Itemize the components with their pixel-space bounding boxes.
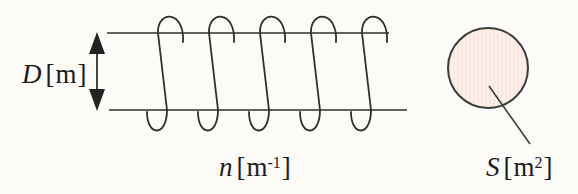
diameter-unit: m: [56, 59, 77, 89]
coil-turn: [147, 17, 183, 131]
cross-section-variable: S: [486, 152, 500, 182]
diameter-bracket-open: [: [46, 59, 55, 89]
coil-turn: [249, 17, 285, 131]
winding-density-bracket-close: ]: [282, 152, 291, 182]
cross-section-unit: m: [514, 152, 535, 182]
cross-section-bracket-open: [: [504, 152, 513, 182]
solenoid-figure: D[m] n[m-1] S[m2]: [0, 0, 578, 194]
diameter-double-arrow-icon: [89, 32, 105, 111]
diameter-variable: D: [22, 59, 42, 89]
cross-section-label: S[m2]: [486, 154, 553, 181]
diameter-arrow-head-top: [89, 32, 105, 54]
cross-section-bracket-close: ]: [544, 152, 553, 182]
coil-turns: [147, 17, 387, 131]
winding-density-bracket-open: [: [237, 152, 246, 182]
diameter-label: D[m]: [22, 61, 87, 88]
winding-density-label: n[m-1]: [219, 154, 291, 181]
diameter-arrow-head-bottom: [89, 89, 105, 111]
coil-turn: [198, 17, 234, 131]
coil-turn: [351, 17, 387, 131]
diameter-bracket-close: ]: [78, 59, 87, 89]
cross-section-exponent: 2: [535, 154, 543, 171]
cross-section-leader-line: [489, 86, 530, 144]
winding-density-unit: m: [247, 152, 268, 182]
winding-density-exponent: -1: [268, 154, 281, 171]
coil-turn: [300, 17, 336, 131]
winding-density-variable: n: [219, 152, 233, 182]
